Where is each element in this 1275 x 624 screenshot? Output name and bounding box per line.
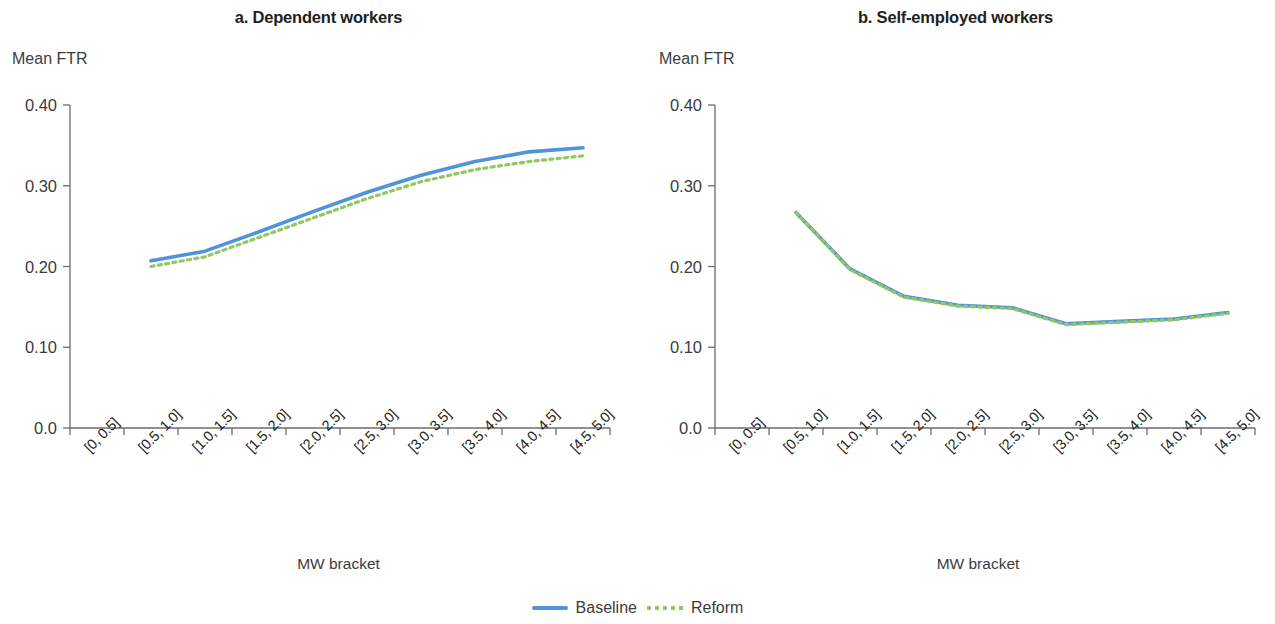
y-tick-label: 0.10 xyxy=(25,338,57,356)
legend-item-baseline: Baseline xyxy=(532,599,637,617)
panel-a-x-tick-labels: [0, 0.5][0.5, 1.0][1.0, 1.5][1.5, 2.0][2… xyxy=(0,432,637,552)
chart-legend: Baseline Reform xyxy=(0,592,1275,624)
legend-label-reform: Reform xyxy=(691,599,743,617)
figure-root: a. Dependent workers Mean FTR 0.00.100.2… xyxy=(0,0,1275,624)
series-line-reform xyxy=(151,156,583,267)
y-tick-label: 0.20 xyxy=(670,258,702,276)
chart-panel-b: b. Self-employed workers Mean FTR 0.00.1… xyxy=(637,0,1274,590)
legend-swatch-baseline-icon xyxy=(532,606,568,610)
y-tick-label: 0.10 xyxy=(670,338,702,356)
legend-label-baseline: Baseline xyxy=(576,599,637,617)
y-tick-label: 0.40 xyxy=(670,96,702,114)
legend-swatch-reform-icon xyxy=(647,606,683,610)
series-line-reform xyxy=(796,212,1228,324)
panel-a-plot-area: 0.00.100.200.300.40 xyxy=(0,0,637,470)
y-tick-label: 0.30 xyxy=(670,177,702,195)
series-line-baseline xyxy=(151,148,583,261)
y-tick-label: 0.20 xyxy=(25,258,57,276)
y-tick-label: 0.30 xyxy=(25,177,57,195)
y-tick-label: 0.40 xyxy=(25,96,57,114)
legend-item-reform: Reform xyxy=(647,599,743,617)
chart-panel-a: a. Dependent workers Mean FTR 0.00.100.2… xyxy=(0,0,637,590)
panel-a-x-axis-label: MW bracket xyxy=(0,555,637,573)
panel-b-plot-area: 0.00.100.200.300.40 xyxy=(637,0,1274,470)
panel-b-x-tick-labels: [0, 0.5][0.5, 1.0][1.0, 1.5][1.5, 2.0][2… xyxy=(637,432,1274,552)
panel-b-x-axis-label: MW bracket xyxy=(637,555,1274,573)
